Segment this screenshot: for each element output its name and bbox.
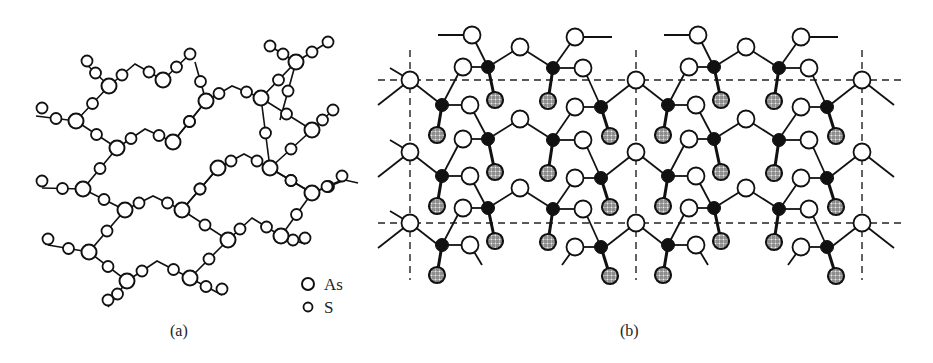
white-atom-icon bbox=[854, 144, 871, 161]
s-atom-icon bbox=[322, 181, 333, 192]
white-atom-icon bbox=[628, 72, 645, 89]
as-atom-icon bbox=[289, 55, 304, 70]
as-atom-icon bbox=[102, 79, 117, 94]
s-atom-icon bbox=[168, 264, 179, 275]
s-atom-icon bbox=[37, 103, 48, 114]
black-atom-icon bbox=[482, 202, 495, 215]
white-atom-icon bbox=[801, 201, 818, 218]
white-atom-icon bbox=[793, 99, 810, 116]
black-atom-icon bbox=[547, 134, 560, 147]
s-atom-icon bbox=[43, 234, 54, 245]
hatched-atom-icon bbox=[713, 92, 729, 108]
s-atom-icon bbox=[217, 284, 228, 295]
as-atom-icon bbox=[120, 274, 135, 289]
s-atom-icon bbox=[323, 37, 334, 48]
hatched-atom-icon bbox=[602, 128, 618, 144]
white-atom-icon bbox=[455, 131, 472, 148]
as-atom-icon bbox=[254, 91, 269, 106]
black-atom-icon bbox=[708, 61, 721, 74]
s-atom-icon bbox=[291, 209, 302, 220]
s-atom-icon bbox=[185, 49, 196, 60]
black-atom-icon bbox=[708, 202, 721, 215]
white-atom-icon bbox=[512, 39, 529, 56]
white-atom-icon bbox=[628, 144, 645, 161]
s-atom-icon bbox=[195, 76, 206, 87]
as-atom-icon bbox=[69, 114, 84, 129]
as-atom-icon bbox=[274, 229, 289, 244]
white-atom-icon bbox=[567, 239, 584, 256]
s-legend-symbol-icon bbox=[304, 303, 313, 312]
black-atom-icon bbox=[595, 101, 608, 114]
white-atom-icon bbox=[854, 215, 871, 232]
s-atom-icon bbox=[201, 281, 212, 292]
s-atom-icon bbox=[265, 41, 276, 52]
as-atom-icon bbox=[166, 135, 181, 150]
white-atom-icon bbox=[801, 132, 818, 149]
s-atom-icon bbox=[144, 67, 155, 78]
s-atom-icon bbox=[286, 175, 297, 186]
s-atom-icon bbox=[261, 222, 272, 233]
white-atom-icon bbox=[402, 72, 419, 89]
white-atom-icon bbox=[462, 97, 479, 114]
white-atom-icon bbox=[793, 29, 810, 46]
s-atom-icon bbox=[63, 243, 74, 254]
hatched-atom-icon bbox=[487, 233, 503, 249]
hatched-atom-icon bbox=[540, 165, 556, 181]
s-atom-icon bbox=[99, 194, 110, 205]
s-atom-icon bbox=[82, 56, 93, 67]
as-atom-icon bbox=[82, 245, 97, 260]
legend-as-label: As bbox=[324, 275, 343, 294]
white-atom-icon bbox=[464, 27, 481, 44]
white-atom-icon bbox=[681, 200, 698, 217]
white-atom-icon bbox=[690, 27, 707, 44]
hatched-atom-icon bbox=[655, 127, 671, 143]
s-atom-icon bbox=[286, 144, 297, 155]
panel-b-projection-structure bbox=[378, 27, 905, 285]
as-atom-icon bbox=[263, 161, 278, 176]
panel-a-label: (a) bbox=[170, 322, 188, 340]
white-atom-icon bbox=[402, 215, 419, 232]
panel-a-layer-structure bbox=[36, 37, 358, 308]
black-atom-icon bbox=[662, 99, 675, 112]
white-atom-icon bbox=[567, 170, 584, 187]
hatched-atom-icon bbox=[602, 268, 618, 284]
s-atom-icon bbox=[281, 109, 292, 120]
white-atom-icon bbox=[681, 59, 698, 76]
as-atom-icon bbox=[221, 233, 236, 248]
panel-b-label: (b) bbox=[620, 322, 639, 340]
s-atom-icon bbox=[162, 198, 173, 209]
as-atom-icon bbox=[110, 141, 125, 156]
black-atom-icon bbox=[482, 133, 495, 146]
black-atom-icon bbox=[547, 62, 560, 75]
white-atom-icon bbox=[455, 200, 472, 217]
white-atom-icon bbox=[688, 97, 705, 114]
hatched-atom-icon bbox=[487, 164, 503, 180]
hatched-atom-icon bbox=[429, 267, 445, 283]
black-atom-icon bbox=[436, 239, 449, 252]
s-atom-icon bbox=[103, 261, 114, 272]
hatched-atom-icon bbox=[487, 92, 503, 108]
s-atom-icon bbox=[195, 184, 206, 195]
s-atom-icon bbox=[154, 130, 165, 141]
black-atom-icon bbox=[595, 241, 608, 254]
as-atom-icon bbox=[156, 73, 171, 88]
white-atom-icon bbox=[402, 144, 419, 161]
bond-line bbox=[83, 148, 358, 210]
as-atom-icon bbox=[211, 161, 226, 176]
s-atom-icon bbox=[252, 156, 263, 167]
legend-s-label: S bbox=[324, 298, 333, 317]
hatched-atom-icon bbox=[713, 233, 729, 249]
s-atom-icon bbox=[184, 116, 195, 127]
hatched-atom-icon bbox=[540, 93, 556, 109]
white-atom-icon bbox=[575, 132, 592, 149]
black-atom-icon bbox=[708, 133, 721, 146]
as-atom-icon bbox=[305, 186, 320, 201]
white-atom-icon bbox=[462, 168, 479, 185]
hatched-atom-icon bbox=[540, 234, 556, 250]
black-atom-icon bbox=[821, 101, 834, 114]
s-atom-icon bbox=[260, 128, 271, 139]
white-atom-icon bbox=[567, 99, 584, 116]
s-atom-icon bbox=[328, 105, 339, 116]
arsenic-sulfide-structure-figure: As S (a) (b) bbox=[0, 0, 933, 363]
white-atom-icon bbox=[738, 39, 755, 56]
